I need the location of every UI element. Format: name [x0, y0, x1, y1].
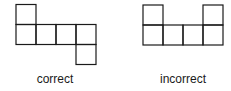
figure-incorrect: [143, 5, 223, 45]
square-cell: [143, 25, 163, 45]
square-cell: [203, 25, 223, 45]
label-incorrect: incorrect: [138, 72, 228, 86]
square-cell: [183, 25, 203, 45]
square-cell: [16, 5, 36, 25]
label-correct: correct: [10, 72, 100, 86]
square-cell: [163, 25, 183, 45]
square-cell: [56, 25, 76, 45]
figure-correct: [16, 5, 96, 65]
square-cell: [76, 25, 96, 45]
square-cell: [36, 25, 56, 45]
square-cell: [143, 5, 163, 25]
square-cell: [76, 45, 96, 65]
square-cell: [16, 25, 36, 45]
square-cell: [203, 5, 223, 25]
